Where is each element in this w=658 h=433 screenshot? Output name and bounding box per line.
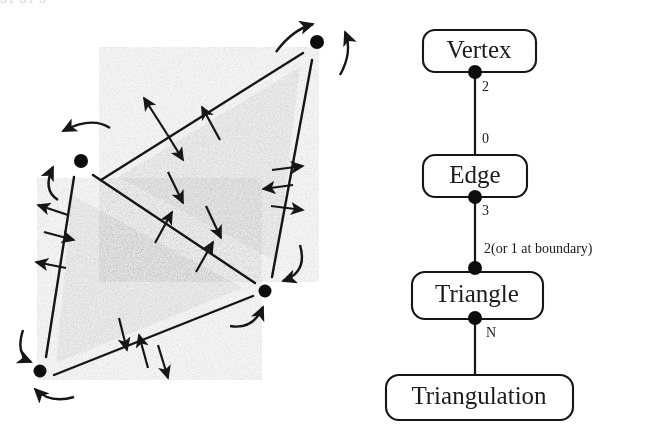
junction-dot-edge-bottom xyxy=(468,190,482,204)
right-diagram: Vertex Edge Triangle Triangulation 2 0 3… xyxy=(386,30,593,420)
node-labels: Vertex Edge Triangle Triangulation xyxy=(411,36,547,409)
vertex-dot-bottomleft xyxy=(34,365,47,378)
multiplicity-edge-bottom: 3 xyxy=(482,203,489,218)
multiplicity-triangle-bottom: N xyxy=(486,325,496,340)
curve-right-upper xyxy=(283,245,302,281)
figure-canvas: Vertex Edge Triangle Triangulation 2 0 3… xyxy=(0,0,658,433)
arrow-bottom-out xyxy=(158,345,168,378)
vertex-dot-right xyxy=(259,285,272,298)
multiplicity-edge-top: 0 xyxy=(482,131,489,146)
curve-left-lower xyxy=(49,167,58,200)
arrow-left-edge-out xyxy=(38,205,68,215)
node-label-vertex: Vertex xyxy=(446,36,512,63)
node-label-edge: Edge xyxy=(449,161,500,188)
vertex-dot-top xyxy=(310,35,324,49)
arrow-top-edge-out xyxy=(144,98,167,134)
triangle-faces xyxy=(56,67,300,363)
curve-left-upper xyxy=(63,123,110,131)
multiplicity-vertex-side: 2 xyxy=(482,79,489,94)
figure-root: g p g p g xyxy=(0,0,658,433)
junction-dot-triangle-top xyxy=(468,261,482,275)
vertex-dot-left xyxy=(74,154,88,168)
curve-right-lower xyxy=(230,307,263,327)
curve-bl-upper xyxy=(20,330,31,362)
triangle-face-upper xyxy=(118,67,300,262)
node-label-triangulation: Triangulation xyxy=(411,382,547,409)
left-diagram xyxy=(20,24,348,399)
junction-dot-triangle-bottom xyxy=(468,311,482,325)
junction-dot-vertex-bottom xyxy=(468,65,482,79)
curve-top-right xyxy=(340,32,348,75)
curve-bl-lower xyxy=(35,389,74,399)
hierarchy-boxes xyxy=(386,30,573,420)
node-label-triangle: Triangle xyxy=(435,280,519,307)
multiplicity-triangle-top: 2(or 1 at boundary) xyxy=(484,241,593,257)
curve-top-left xyxy=(276,24,313,52)
